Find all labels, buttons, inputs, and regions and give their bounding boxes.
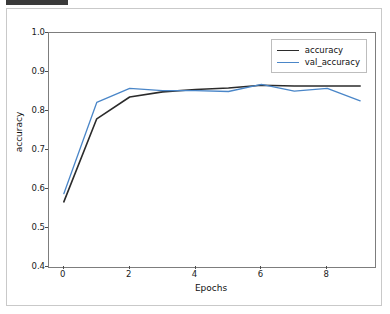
legend-entry-accuracy: accuracy [277, 44, 360, 56]
legend-label: accuracy [305, 45, 343, 55]
y-tick-label: 0.6 [31, 183, 45, 193]
plot-area: accuracyval_accuracy [48, 32, 376, 268]
y-tick-label: 0.8 [31, 105, 45, 115]
legend-entry-val_accuracy: val_accuracy [277, 56, 360, 68]
x-tick-label: 8 [324, 269, 329, 279]
y-tick-label: 0.9 [31, 66, 45, 76]
series-line-accuracy [64, 85, 360, 202]
figure-card: 0.40.50.60.70.80.91.0 accuracy accuracyv… [6, 8, 382, 306]
y-tick-label: 0.4 [31, 261, 45, 271]
x-tick-label: 0 [60, 269, 65, 279]
series-line-val_accuracy [64, 84, 360, 193]
toolbar-edge-artifact [6, 0, 68, 5]
x-tick-label: 6 [258, 269, 263, 279]
legend-line-swatch [277, 50, 299, 51]
chart-legend: accuracyval_accuracy [271, 39, 367, 73]
x-tick-label: 4 [192, 269, 197, 279]
x-axis-label: Epochs [48, 283, 374, 293]
y-tick-label: 0.7 [31, 144, 45, 154]
legend-label: val_accuracy [305, 57, 360, 67]
y-axis-label: accuracy [14, 92, 24, 172]
x-axis-tick-labels: 02468 [48, 269, 374, 283]
y-tick-label: 1.0 [31, 27, 45, 37]
y-tick-label: 0.5 [31, 222, 45, 232]
x-tick-label: 2 [126, 269, 131, 279]
legend-line-swatch [277, 62, 299, 63]
